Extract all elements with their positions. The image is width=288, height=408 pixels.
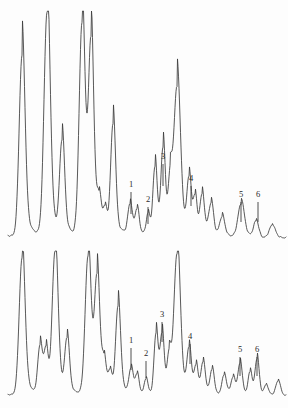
peak-label-4: 4 [188, 332, 192, 341]
peak-label-6: 6 [255, 345, 259, 354]
peak-label-3: 3 [160, 310, 164, 319]
peak-label-1: 1 [129, 336, 133, 345]
lower-trace-peak-labels: 123456 [0, 0, 288, 408]
peak-label-5: 5 [238, 345, 242, 354]
chromatogram-figure: 123456 123456 [0, 0, 288, 408]
peak-label-2: 2 [144, 349, 148, 358]
